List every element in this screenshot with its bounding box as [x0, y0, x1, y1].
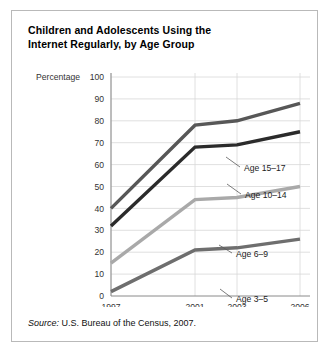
series-label-leader-lines [219, 157, 241, 298]
series-label-leader [220, 289, 232, 298]
chart-plot-area: 0102030405060708090100 1997200120032006 … [12, 57, 317, 307]
y-axis-tick-label: 90 [94, 94, 104, 104]
series-label: Age 10–14 [245, 190, 287, 200]
y-axis-tick-label: 10 [94, 269, 104, 279]
axis-titles: PercentageYear [36, 72, 214, 307]
y-axis-tick-label: 50 [94, 182, 104, 192]
gridlines-vertical [111, 73, 300, 296]
line-chart-svg: 0102030405060708090100 1997200120032006 … [12, 57, 317, 307]
x-axis-tick-label: 2006 [290, 302, 309, 307]
x-axis-tick-labels: 1997200120032006 [101, 302, 309, 307]
y-axis-tick-label: 40 [94, 204, 104, 214]
figure-panel: Children and Adolescents Using the Inter… [11, 10, 318, 342]
y-axis-tick-label: 100 [90, 72, 105, 82]
series-line [111, 239, 300, 292]
axis-lines [111, 73, 310, 296]
x-axis-tick-label: 2001 [185, 302, 204, 307]
source-note: Source: U.S. Bureau of the Census, 2007. [28, 318, 196, 328]
series-labels: Age 15–17Age 10–14Age 6–9Age 3–5 [236, 163, 287, 304]
series-label: Age 15–17 [244, 163, 286, 173]
gridlines-horizontal [111, 77, 310, 274]
y-axis-tick-label: 60 [94, 160, 104, 170]
chart-title-line-1: Children and Adolescents Using the [28, 24, 293, 38]
source-text: U.S. Bureau of the Census, 2007. [59, 318, 196, 328]
y-axis-tick-label: 30 [94, 225, 104, 235]
y-axis-tick-label: 20 [94, 247, 104, 257]
y-axis-tick-label: 70 [94, 138, 104, 148]
y-axis-tick-label: 0 [99, 291, 104, 301]
source-label: Source: [28, 318, 59, 328]
chart-title: Children and Adolescents Using the Inter… [28, 24, 293, 51]
series-label: Age 6–9 [236, 249, 268, 259]
series-label-leader [227, 184, 241, 194]
chart-title-line-2: Internet Regularly, by Age Group [28, 38, 293, 52]
y-axis-tick-label: 80 [94, 116, 104, 126]
series-label-leader [226, 157, 240, 167]
y-axis-title: Percentage [36, 72, 80, 82]
x-axis-tick-label: 1997 [101, 302, 120, 307]
y-axis-tick-labels: 0102030405060708090100 [90, 72, 105, 301]
series-label: Age 3–5 [236, 294, 268, 304]
